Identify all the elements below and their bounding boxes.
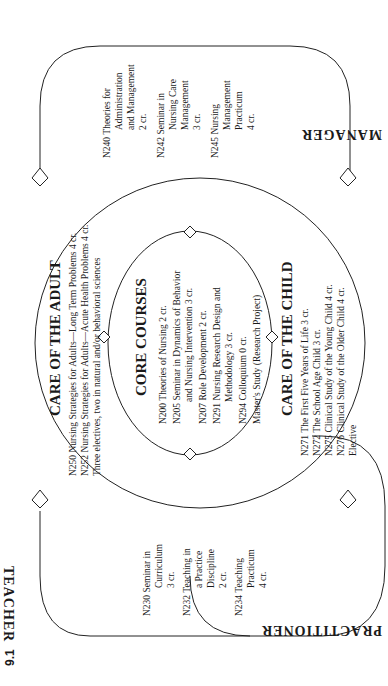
svg-text:Management: Management — [222, 80, 232, 130]
svg-text:Curriculum: Curriculum — [154, 544, 164, 588]
svg-text:N271 The First Five Years of L: N271 The First Five Years of Life 3 cr. — [300, 308, 310, 456]
teacher-capsule — [190, 436, 385, 636]
svg-text:N294 Colloquium 0 cr.: N294 Colloquium 0 cr. — [238, 336, 248, 424]
svg-text:Practicum: Practicum — [234, 91, 244, 130]
rotated-diagram: TEACHER MANAGER PRACTITIONER CORE COURSE… — [1, 46, 385, 666]
curriculum-diagram: TEACHER MANAGER PRACTITIONER CORE COURSE… — [0, 0, 388, 686]
svg-text:N276 Clinical Study of the Old: N276 Clinical Study of the Older Child 4… — [336, 287, 346, 456]
svg-text:N242 Seminar in: N242 Seminar in — [156, 93, 166, 158]
svg-text:Practicum: Practicum — [246, 549, 256, 588]
svg-text:Management: Management — [180, 80, 190, 130]
svg-text:N245 Nursing: N245 Nursing — [210, 104, 220, 158]
svg-text:Three electives, two in natura: Three electives, two in natural and/or b… — [92, 257, 102, 476]
svg-text:N291 Nursing Research Design a: N291 Nursing Research Design and — [212, 287, 222, 424]
care-of-adult-list: N250 Nursing Strategies for Adults—Long … — [68, 225, 102, 476]
care-of-adult-title: CARE OF THE ADULT — [47, 260, 63, 416]
practitioner-label: PRACTITIONER — [261, 623, 382, 638]
svg-text:4 cr.: 4 cr. — [258, 572, 268, 588]
care-of-child-list: N271 The First Five Years of Life 3 cr. … — [300, 284, 358, 456]
svg-text:2 cr.: 2 cr. — [218, 572, 228, 588]
svg-text:Administration: Administration — [114, 72, 124, 130]
svg-text:N205 Seminar in Dynamics of Be: N205 Seminar in Dynamics of Behavior — [172, 270, 182, 424]
svg-text:Nursing Care: Nursing Care — [168, 79, 178, 130]
svg-text:N275 Clinical Study of the You: N275 Clinical Study of the Young Child 4… — [324, 284, 334, 456]
svg-text:and Nursing Intervention 3 cr.: and Nursing Intervention 3 cr. — [184, 288, 194, 402]
svg-text:N207 Role Development 2 cr.: N207 Role Development 2 cr. — [198, 310, 208, 424]
svg-text:Methodology 3 cr.: Methodology 3 cr. — [224, 332, 234, 402]
teacher-label: TEACHER — [1, 566, 16, 642]
svg-text:Master's Study (Research Proje: Master's Study (Research Project) — [252, 295, 263, 424]
svg-text:4 cr.: 4 cr. — [246, 114, 256, 130]
svg-text:N200 Theories of Nursing 2 cr.: N200 Theories of Nursing 2 cr. — [158, 305, 168, 424]
manager-label: MANAGER — [301, 127, 382, 142]
teacher-course-list: N230 Seminar in Curriculum 3 cr. N232 Te… — [142, 544, 268, 616]
care-of-child-title: CARE OF THE CHILD — [279, 261, 295, 416]
core-courses-list: N200 Theories of Nursing 2 cr. N205 Semi… — [158, 270, 263, 424]
svg-text:Discipline: Discipline — [206, 549, 216, 588]
svg-text:3 cr.: 3 cr. — [166, 572, 176, 588]
svg-text:N234 Teaching: N234 Teaching — [234, 558, 244, 616]
svg-text:2 cr.: 2 cr. — [138, 114, 148, 130]
figure-label: 9.1 — [3, 649, 17, 666]
svg-text:Elective: Elective — [348, 425, 358, 456]
svg-text:N232 Teaching in: N232 Teaching in — [182, 548, 192, 616]
svg-text:N272 The School Age Child 3 cr: N272 The School Age Child 3 cr. — [312, 329, 322, 456]
svg-text:N252 Nursing Strategies for Ad: N252 Nursing Strategies for Adults—Acute… — [80, 225, 90, 476]
core-courses-title: CORE COURSES — [133, 278, 149, 396]
svg-text:3 cr.: 3 cr. — [192, 114, 202, 130]
svg-text:N250 Nursing Strategies for Ad: N250 Nursing Strategies for Adults—Long … — [68, 233, 78, 476]
manager-capsule — [40, 46, 350, 176]
svg-text:and Management: and Management — [126, 64, 136, 130]
manager-course-list: N240 Theories for Administration and Man… — [102, 64, 256, 158]
svg-text:a Practice: a Practice — [194, 551, 204, 588]
svg-text:N240 Theories for: N240 Theories for — [102, 87, 112, 158]
svg-text:N230 Seminar in: N230 Seminar in — [142, 551, 152, 616]
diagram-stage: TEACHER MANAGER PRACTITIONER CORE COURSE… — [0, 0, 388, 686]
